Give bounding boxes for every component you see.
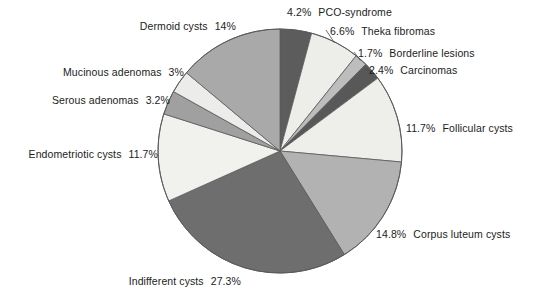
pie-slices-group (158, 29, 402, 273)
slice-value-follicular-cysts: 11.7% (406, 122, 436, 134)
slice-name-endometriotic-cysts: Endometriotic cysts (29, 148, 122, 160)
slice-value-indifferent-cysts: 27.3% (211, 275, 241, 287)
slice-value-dermoid-cysts: 14% (215, 20, 236, 32)
slice-name-follicular-cysts: Follicular cysts (443, 122, 513, 134)
slice-name-serous-adenomas: Serous adenomas (52, 94, 139, 106)
slice-name-mucinous-adenomas: Mucinous adenomas (63, 66, 162, 78)
slice-label-follicular-cysts: 11.7%Follicular cysts (406, 122, 513, 134)
slice-value-mucinous-adenomas: 3% (169, 66, 184, 78)
slice-name-pco-syndrome: PCO-syndrome (318, 6, 392, 18)
slice-value-pco-syndrome: 4.2% (287, 6, 311, 18)
slice-label-corpus-luteum-cysts: 14.8%Corpus luteum cysts (376, 228, 510, 240)
slice-label-indifferent-cysts: Indifferent cysts27.3% (129, 275, 241, 287)
slice-value-serous-adenomas: 3.2% (146, 94, 170, 106)
slice-label-carcinomas: 2.4%Carcinomas (369, 64, 457, 76)
pie-chart-canvas (0, 0, 533, 294)
slice-label-pco-syndrome: 4.2%PCO-syndrome (287, 6, 392, 18)
slice-label-dermoid-cysts: Dermoid cysts14% (140, 20, 236, 32)
slice-value-endometriotic-cysts: 11.7% (129, 148, 159, 160)
slice-name-indifferent-cysts: Indifferent cysts (129, 275, 204, 287)
slice-value-carcinomas: 2.4% (369, 64, 393, 76)
slice-value-theka-fibromas: 6.6% (330, 25, 354, 37)
slice-value-corpus-luteum-cysts: 14.8% (376, 228, 406, 240)
slice-label-endometriotic-cysts: Endometriotic cysts11.7% (29, 148, 158, 160)
slice-name-corpus-luteum-cysts: Corpus luteum cysts (413, 228, 510, 240)
slice-value-borderline-lesions: 1.7% (358, 47, 382, 59)
slice-label-theka-fibromas: 6.6%Theka fibromas (330, 25, 435, 37)
slice-name-dermoid-cysts: Dermoid cysts (140, 20, 208, 32)
slice-label-mucinous-adenomas: Mucinous adenomas3% (63, 66, 184, 78)
slice-label-serous-adenomas: Serous adenomas3.2% (52, 94, 170, 106)
slice-name-theka-fibromas: Theka fibromas (361, 25, 435, 37)
pie-chart-figure: 4.2%PCO-syndrome 6.6%Theka fibromas 1.7%… (0, 0, 533, 294)
slice-label-borderline-lesions: 1.7%Borderline lesions (358, 47, 475, 59)
slice-name-carcinomas: Carcinomas (400, 64, 457, 76)
slice-name-borderline-lesions: Borderline lesions (389, 47, 474, 59)
